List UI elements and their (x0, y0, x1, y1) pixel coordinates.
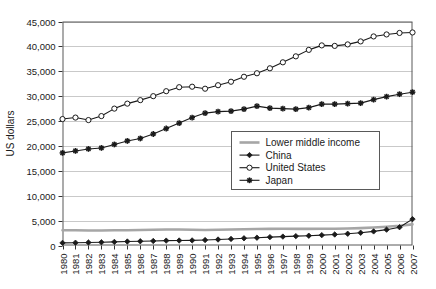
data-point-marker (202, 110, 208, 116)
data-point-marker (241, 74, 246, 79)
data-point-marker (332, 43, 337, 48)
data-point-marker (280, 60, 285, 65)
x-tick-label: 1980 (58, 254, 69, 275)
data-point-marker (280, 106, 286, 112)
data-point-marker (306, 47, 311, 52)
x-tick-label: 1987 (148, 254, 159, 275)
legend: Lower middle incomeChinaUnited StatesJap… (232, 132, 380, 190)
y-tick-label: 10,000 (26, 191, 55, 202)
x-tick-label: 1996 (265, 254, 276, 275)
data-point-marker (176, 120, 182, 126)
data-point-marker (111, 142, 117, 148)
data-point-marker (397, 91, 403, 97)
data-point-marker (73, 148, 79, 154)
x-tick-label: 2004 (369, 254, 380, 275)
data-point-marker (410, 89, 416, 95)
data-point-marker (358, 39, 363, 44)
x-tick-label: 1999 (304, 254, 315, 275)
data-point-marker (189, 115, 195, 121)
x-tick-label: 1991 (200, 254, 211, 275)
x-tick-label: 1981 (70, 254, 81, 275)
data-point-marker (384, 32, 389, 37)
data-point-marker (247, 165, 252, 170)
y-tick-label: 25,000 (26, 116, 55, 127)
data-point-marker (190, 84, 195, 89)
y-axis-title: US dollars (5, 110, 16, 156)
data-point-marker (293, 54, 298, 59)
x-tick-label: 1984 (109, 254, 120, 275)
data-point-marker (371, 34, 376, 39)
y-tick-label: 45,000 (26, 17, 55, 28)
line-chart: 05,00010,00015,00020,00025,00030,00035,0… (0, 0, 436, 289)
data-point-marker (99, 113, 104, 118)
data-point-marker (150, 131, 156, 137)
data-point-marker (138, 98, 143, 103)
x-tick-label: 1993 (226, 254, 237, 275)
data-point-marker (60, 150, 66, 156)
x-tick-label: 1997 (278, 254, 289, 275)
data-point-marker (98, 145, 104, 151)
chart-container: 05,00010,00015,00020,00025,00030,00035,0… (0, 0, 436, 289)
data-point-marker (319, 101, 325, 107)
y-tick-label: 30,000 (26, 91, 55, 102)
x-tick-label: 1989 (174, 254, 185, 275)
data-point-marker (163, 126, 169, 132)
y-tick-label: 15,000 (26, 166, 55, 177)
data-point-marker (86, 117, 91, 122)
data-point-marker (164, 89, 169, 94)
data-point-marker (177, 85, 182, 90)
y-tick-label: 0 (50, 241, 55, 252)
data-point-marker (228, 79, 233, 84)
data-point-marker (397, 30, 402, 35)
data-point-marker (267, 105, 273, 111)
x-tick-label: 1992 (213, 254, 224, 275)
x-axis-ticks (64, 246, 414, 250)
data-point-marker (202, 86, 207, 91)
data-point-marker (124, 138, 130, 144)
data-point-marker (241, 106, 247, 112)
data-point-marker (137, 136, 143, 142)
x-tick-label: 1998 (291, 254, 302, 275)
data-point-marker (293, 106, 299, 112)
x-tick-label: 1983 (96, 254, 107, 275)
legend-label: United States (266, 162, 326, 173)
data-point-marker (125, 101, 130, 106)
y-tick-label: 5,000 (32, 216, 56, 227)
legend-label: Japan (266, 175, 293, 186)
data-point-marker (267, 66, 272, 71)
x-tick-label: 1986 (135, 254, 146, 275)
data-point-marker (332, 101, 338, 107)
legend-label: China (266, 150, 293, 161)
data-point-marker (151, 94, 156, 99)
data-point-marker (254, 103, 260, 109)
data-point-marker (306, 105, 312, 111)
x-tick-label: 1985 (122, 254, 133, 275)
x-tick-label: 1994 (239, 254, 250, 275)
data-point-marker (358, 100, 364, 106)
data-point-marker (410, 30, 415, 35)
data-point-marker (86, 146, 92, 152)
y-axis-ticks (59, 23, 63, 247)
data-point-marker (112, 106, 117, 111)
y-tick-label: 20,000 (26, 141, 55, 152)
x-tick-label: 2000 (317, 254, 328, 275)
x-tick-label: 2001 (330, 254, 341, 275)
y-tick-label: 40,000 (26, 41, 55, 52)
y-tick-label: 35,000 (26, 66, 55, 77)
x-tick-label: 1990 (187, 254, 198, 275)
x-tick-label: 1995 (252, 254, 263, 275)
data-point-marker (60, 116, 65, 121)
data-point-marker (215, 83, 220, 88)
data-point-marker (345, 101, 351, 107)
data-point-marker (215, 109, 221, 115)
data-point-marker (254, 71, 259, 76)
x-tick-label: 2007 (408, 254, 419, 275)
data-point-marker (247, 177, 253, 183)
x-tick-label: 2002 (343, 254, 354, 275)
data-point-marker (371, 97, 377, 103)
legend-label: Lower middle income (266, 137, 361, 148)
x-tick-label: 2003 (356, 254, 367, 275)
x-tick-label: 2005 (382, 254, 393, 275)
x-tick-label: 1982 (83, 254, 94, 275)
data-point-marker (319, 43, 324, 48)
